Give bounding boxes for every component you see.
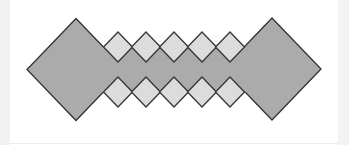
diamond-chain-figure bbox=[0, 0, 349, 145]
